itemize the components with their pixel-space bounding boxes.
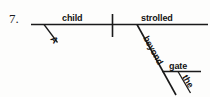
exercise-number: 7. — [9, 11, 19, 26]
word-article-a: A — [48, 34, 60, 46]
word-article-the: the — [180, 73, 195, 90]
sentence-diagram-page: 7. child strolled A beyond gate the — [0, 0, 210, 97]
word-subject-child: child — [62, 13, 83, 23]
word-object-gate: gate — [169, 61, 187, 71]
word-verb-strolled: strolled — [141, 13, 173, 23]
word-preposition-beyond: beyond — [141, 34, 165, 66]
sentence-diagram: 7. child strolled A beyond gate the — [0, 0, 210, 97]
